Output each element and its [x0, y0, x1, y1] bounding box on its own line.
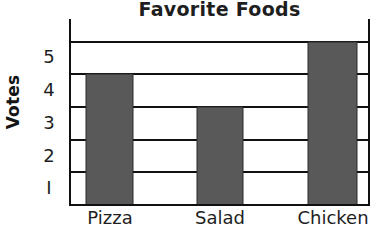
bar-pizza	[86, 74, 133, 205]
bar-chart: Favorite Foods Votes 5 4 3 2 I Pizza Sal…	[0, 0, 377, 238]
plot-area	[0, 0, 377, 238]
bar-chicken	[308, 42, 357, 205]
x-label-chicken: Chicken	[297, 207, 368, 228]
x-label-salad: Salad	[195, 207, 245, 228]
bar-salad	[197, 107, 243, 205]
x-label-pizza: Pizza	[87, 207, 132, 228]
x-axis-category-labels: Pizza Salad Chicken	[0, 207, 377, 238]
